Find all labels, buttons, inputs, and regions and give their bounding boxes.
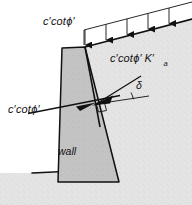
traction-prime-2: ′ <box>37 103 40 115</box>
svg-text:c′cotϕ′: c′cotϕ′ <box>43 15 75 27</box>
surcharge-prime-2: ′ <box>72 15 75 27</box>
backface-k-subscript: a <box>164 59 168 68</box>
surcharge-cot: cot <box>51 15 67 27</box>
label-surcharge-top: c′cotϕ′ <box>43 15 75 27</box>
label-base-traction: c′cotϕ′ <box>8 103 40 115</box>
svg-text:c′cotϕ′: c′cotϕ′ <box>8 103 40 115</box>
backface-cot: cot <box>118 52 134 64</box>
delta-label: δ <box>136 79 142 91</box>
traction-cot: cot <box>16 103 32 115</box>
wall-label: wall <box>58 145 77 157</box>
svg-text:c′cotϕ′K′: c′cotϕ′K′ <box>110 52 155 64</box>
figure-canvas: c′cotϕ′ c′cotϕ′K′ a c′cotϕ′ wall δ <box>0 0 192 205</box>
retaining-wall-figure: c′cotϕ′ c′cotϕ′K′ a c′cotϕ′ wall δ <box>0 0 192 205</box>
